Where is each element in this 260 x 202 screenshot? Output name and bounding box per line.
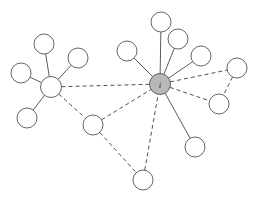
hub-node[interactable]: i <box>150 74 171 95</box>
node-circle[interactable] <box>168 29 188 49</box>
node-circle[interactable] <box>41 77 62 98</box>
leaf-node[interactable] <box>227 58 247 78</box>
leaf-node[interactable] <box>17 108 37 128</box>
leaf-node[interactable] <box>185 137 205 157</box>
leaf-node[interactable] <box>191 46 211 66</box>
leaf-node[interactable] <box>68 48 88 68</box>
node-circle[interactable] <box>185 137 205 157</box>
node-circle[interactable] <box>227 58 247 78</box>
node-circle[interactable] <box>83 115 103 135</box>
edge-solid <box>58 65 71 79</box>
node-circle[interactable] <box>117 41 137 61</box>
edge-solid <box>169 62 193 78</box>
node-circle[interactable] <box>209 94 229 114</box>
edge-solid <box>164 48 174 74</box>
leaf-node[interactable] <box>151 12 171 32</box>
leaf-node[interactable] <box>34 34 54 54</box>
edge-dashed <box>102 89 152 119</box>
edge-dashed <box>170 70 227 82</box>
node-circle[interactable] <box>68 48 88 68</box>
node-circle[interactable] <box>151 12 171 32</box>
edge-dashed <box>170 87 210 100</box>
node-circle[interactable] <box>191 46 211 66</box>
edge-dashed <box>100 132 137 172</box>
edge-solid <box>30 77 41 82</box>
leaf-node[interactable] <box>133 170 153 190</box>
leaf-node[interactable] <box>11 63 31 83</box>
node-layer: i <box>11 12 247 190</box>
hub-node[interactable] <box>41 77 62 98</box>
leaf-node[interactable] <box>209 94 229 114</box>
edge-solid <box>160 32 161 74</box>
edge-dashed <box>223 77 232 95</box>
leaf-node[interactable] <box>168 29 188 49</box>
node-circle[interactable] <box>11 63 31 83</box>
edge-solid <box>33 95 44 110</box>
edge-solid <box>46 54 50 77</box>
edge-dashed <box>59 94 86 118</box>
node-circle[interactable] <box>17 108 37 128</box>
edge-dashed <box>145 94 158 170</box>
network-diagram-canvas: i <box>0 0 260 202</box>
edge-solid <box>165 93 190 138</box>
edge-dashed <box>62 84 150 86</box>
edge-solid <box>134 58 153 77</box>
leaf-node[interactable] <box>117 41 137 61</box>
node-circle[interactable] <box>133 170 153 190</box>
node-circle[interactable] <box>34 34 54 54</box>
bridge-node[interactable] <box>83 115 103 135</box>
network-diagram: i <box>0 0 260 202</box>
